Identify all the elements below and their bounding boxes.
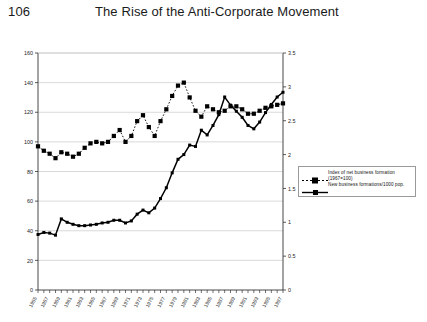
series-marker-formations — [247, 124, 250, 127]
series-marker-formations — [188, 144, 191, 147]
x-axis-tick-label: 1983 — [191, 295, 202, 308]
series-marker-formations — [270, 103, 273, 106]
series-marker-formations — [60, 217, 63, 220]
series-marker-formations — [177, 158, 180, 161]
series-marker-index — [118, 128, 122, 132]
series-marker-formations — [101, 221, 104, 224]
series-marker-formations — [107, 221, 110, 224]
page-number: 106 — [8, 4, 30, 19]
legend-label-formations: New business formations/1000 pop. — [328, 182, 404, 188]
series-marker-formations — [54, 234, 57, 237]
series-marker-formations — [130, 219, 133, 222]
y2-axis-tick-label: 3.5 — [288, 50, 296, 56]
series-marker-index — [193, 109, 197, 113]
series-marker-formations — [42, 231, 45, 234]
series-marker-formations — [124, 221, 127, 224]
y2-axis-tick-label: 1.5 — [288, 186, 296, 192]
y2-axis-tick-label: 3 — [288, 84, 291, 90]
x-axis-tick-label: 1995 — [261, 295, 272, 308]
series-marker-formations — [37, 233, 40, 236]
legend-label-index-line2: (1967=100) — [328, 176, 353, 181]
series-marker-index — [100, 141, 104, 145]
x-axis-tick-label: 1997 — [272, 295, 283, 308]
x-axis-tick-label: 1985 — [202, 295, 213, 308]
y-axis-tick-label: 40 — [27, 228, 33, 234]
series-marker-formations — [252, 127, 255, 130]
series-marker-index — [223, 109, 227, 113]
x-axis-tick-label: 1955 — [27, 295, 38, 308]
series-marker-index — [170, 94, 174, 98]
series-marker-formations — [142, 209, 145, 212]
series-marker-index — [182, 81, 186, 85]
series-marker-formations — [165, 186, 168, 189]
series-marker-formations — [217, 113, 220, 116]
series-marker-index — [153, 134, 157, 138]
series-marker-formations — [229, 104, 232, 107]
series-marker-index — [42, 149, 46, 153]
series-marker-formations — [66, 221, 69, 224]
y-axis-tick-label: 100 — [24, 139, 33, 145]
y2-axis-tick-label: 1 — [288, 219, 291, 225]
series-marker-formations — [194, 145, 197, 148]
series-marker-formations — [282, 91, 285, 94]
legend-label-formations-line1: New business formations/1000 pop. — [328, 182, 404, 187]
series-marker-index — [135, 119, 139, 123]
chart-figure: 02040608010012014016000.511.522.533.5195… — [0, 30, 427, 322]
series-marker-index — [188, 95, 192, 99]
y2-axis-tick-label: 2 — [288, 152, 291, 158]
series-marker-formations — [72, 223, 75, 226]
series-marker-formations — [212, 124, 215, 127]
series-marker-formations — [153, 207, 156, 210]
series-marker-index — [36, 144, 40, 148]
series-marker-index — [94, 140, 98, 144]
series-marker-formations — [118, 219, 121, 222]
series-marker-index — [77, 152, 81, 156]
series-marker-index — [258, 109, 262, 113]
page-header: 106 The Rise of the Anti-Corporate Movem… — [0, 0, 427, 30]
series-marker-index — [112, 134, 116, 138]
x-axis-tick-label: 1979 — [167, 295, 178, 308]
series-marker-index — [71, 155, 75, 159]
x-axis-tick-label: 1967 — [97, 295, 108, 308]
series-marker-index — [158, 119, 162, 123]
x-axis-tick-label: 1977 — [156, 295, 167, 308]
x-axis-tick-label: 1993 — [249, 295, 260, 308]
series-marker-index — [123, 140, 127, 144]
series-marker-formations — [136, 213, 139, 216]
series-marker-formations — [276, 96, 279, 99]
y-axis-tick-label: 80 — [27, 169, 33, 175]
x-axis-tick-label: 1961 — [62, 295, 73, 308]
series-marker-formations — [159, 197, 162, 200]
series-marker-index — [147, 125, 151, 129]
series-marker-index — [281, 101, 285, 105]
y2-axis-tick-label: 2.5 — [288, 118, 296, 124]
series-marker-formations — [258, 121, 261, 124]
legend-label-index: Index of net business formation (1967=10… — [328, 170, 395, 181]
series-marker-formations — [171, 171, 174, 174]
series-marker-formations — [83, 224, 86, 227]
x-axis-tick-label: 1987 — [214, 295, 225, 308]
legend-swatch-solid-square — [302, 183, 328, 192]
series-marker-formations — [200, 129, 203, 132]
series-marker-formations — [147, 211, 150, 214]
series-marker-index — [53, 156, 57, 160]
series-marker-formations — [95, 223, 98, 226]
series-marker-index — [141, 113, 145, 117]
y-axis-tick-label: 20 — [27, 258, 33, 264]
x-axis-tick-label: 1971 — [121, 295, 132, 308]
x-axis-tick-label: 1975 — [144, 295, 155, 308]
running-head-title: The Rise of the Anti-Corporate Movement — [95, 4, 339, 19]
series-marker-index — [88, 141, 92, 145]
legend-entry-index: Index of net business formation (1967=10… — [302, 170, 412, 181]
series-marker-index — [205, 104, 209, 108]
y2-axis-tick-label: 0 — [288, 287, 291, 293]
series-marker-index — [211, 107, 215, 111]
legend-label-index-line1: Index of net business formation — [328, 170, 395, 175]
x-axis-tick-label: 1963 — [74, 295, 85, 308]
series-marker-formations — [182, 153, 185, 156]
x-axis-tick-label: 1957 — [39, 295, 50, 308]
series-marker-index — [59, 150, 63, 154]
series-marker-index — [65, 152, 69, 156]
series-marker-index — [246, 112, 250, 116]
series-marker-formations — [48, 232, 51, 235]
